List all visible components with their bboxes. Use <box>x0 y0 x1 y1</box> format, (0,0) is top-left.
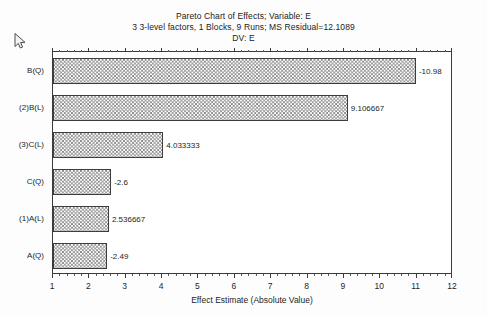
x-axis-minor-tick <box>227 50 228 52</box>
x-axis-minor-tick <box>372 50 373 52</box>
x-axis-minor-tick <box>248 50 249 52</box>
x-axis-minor-tick <box>430 50 431 52</box>
bar[interactable] <box>53 169 111 195</box>
x-axis-minor-tick <box>183 50 184 52</box>
x-axis-minor-tick <box>241 50 242 52</box>
x-axis-major-tick <box>451 48 452 52</box>
x-axis-minor-tick <box>256 50 257 52</box>
y-axis-category-label: (2)B(L) <box>19 102 44 111</box>
bar[interactable] <box>53 243 107 269</box>
x-axis-minor-tick <box>365 274 366 276</box>
bar-row: 9.106667 <box>53 95 453 121</box>
x-axis-minor-tick <box>132 50 133 52</box>
chart-title: Pareto Chart of Effects; Variable: E <box>0 11 487 22</box>
x-axis-minor-tick <box>336 274 337 276</box>
x-axis-minor-tick <box>168 50 169 52</box>
bar[interactable] <box>53 58 416 84</box>
x-axis-minor-tick <box>437 274 438 276</box>
x-axis-major-tick <box>88 274 89 278</box>
x-axis-minor-tick <box>423 50 424 52</box>
x-axis-minor-tick <box>299 50 300 52</box>
x-axis-minor-tick <box>168 274 169 276</box>
x-axis-minor-tick <box>81 274 82 276</box>
x-axis-minor-tick <box>423 274 424 276</box>
x-axis-minor-tick <box>372 274 373 276</box>
x-axis-minor-tick <box>350 274 351 276</box>
x-axis-minor-tick <box>263 50 264 52</box>
x-axis-minor-tick <box>430 274 431 276</box>
x-axis-major-tick <box>197 48 198 52</box>
x-axis-major-tick <box>52 274 53 278</box>
x-axis-minor-tick <box>183 274 184 276</box>
x-axis-minor-tick <box>445 50 446 52</box>
chart-subtitle: 3 3-level factors, 1 Blocks, 9 Runs; MS … <box>0 22 487 33</box>
y-axis-category-label: A(Q) <box>27 251 44 260</box>
x-axis-major-tick <box>125 48 126 52</box>
x-axis-minor-tick <box>96 274 97 276</box>
x-axis-minor-tick <box>147 274 148 276</box>
x-axis-minor-tick <box>212 50 213 52</box>
x-axis-minor-tick <box>154 274 155 276</box>
x-axis-major-tick <box>451 274 452 278</box>
x-axis-minor-tick <box>285 50 286 52</box>
x-axis-minor-tick <box>292 274 293 276</box>
x-axis-minor-tick <box>74 274 75 276</box>
x-axis-minor-tick <box>59 274 60 276</box>
x-axis-minor-tick <box>227 274 228 276</box>
x-axis-minor-tick <box>139 50 140 52</box>
x-axis-minor-tick <box>387 274 388 276</box>
x-axis-minor-tick <box>292 50 293 52</box>
bar-row: 2.536667 <box>53 206 453 232</box>
x-axis-minor-tick <box>205 50 206 52</box>
x-axis-minor-tick <box>139 274 140 276</box>
x-axis-minor-tick <box>117 50 118 52</box>
y-axis-category-label: (1)A(L) <box>19 214 44 223</box>
plot-area: -10.989.1066674.033333-2.62.536667-2.49 <box>52 51 452 274</box>
x-axis-minor-tick <box>321 274 322 276</box>
x-axis-minor-tick <box>176 274 177 276</box>
x-axis-major-tick <box>161 48 162 52</box>
x-axis-minor-tick <box>205 274 206 276</box>
bar-value-label: 9.106667 <box>348 103 384 112</box>
x-axis-minor-tick <box>117 274 118 276</box>
x-axis-tick-label: 1 <box>50 281 55 291</box>
x-axis-minor-tick <box>365 50 366 52</box>
x-axis-minor-tick <box>176 50 177 52</box>
bar[interactable] <box>53 132 163 158</box>
bar-value-label: 2.536667 <box>109 215 145 224</box>
bar-row: -2.6 <box>53 169 453 195</box>
x-axis-minor-tick <box>314 50 315 52</box>
x-axis-major-tick <box>197 274 198 278</box>
x-axis-tick-label: 2 <box>86 281 91 291</box>
x-axis-minor-tick <box>219 50 220 52</box>
x-axis-major-tick <box>379 274 380 278</box>
bars-layer: -10.989.1066674.033333-2.62.536667-2.49 <box>53 52 451 273</box>
x-axis-minor-tick <box>256 274 257 276</box>
x-axis-tick-label: 10 <box>375 281 384 291</box>
x-axis-major-tick <box>270 48 271 52</box>
x-axis-ticks-top <box>52 48 452 52</box>
x-axis-minor-tick <box>67 274 68 276</box>
x-axis-minor-tick <box>445 274 446 276</box>
bar[interactable] <box>53 206 109 232</box>
x-axis-major-tick <box>416 274 417 278</box>
y-axis-category-label: B(Q) <box>27 65 44 74</box>
x-axis-minor-tick <box>401 274 402 276</box>
x-axis-minor-tick <box>350 50 351 52</box>
x-axis-minor-tick <box>408 274 409 276</box>
x-axis-major-tick <box>343 48 344 52</box>
x-axis-tick-label: 8 <box>304 281 309 291</box>
x-axis-minor-tick <box>96 50 97 52</box>
x-axis-minor-tick <box>103 50 104 52</box>
x-axis-minor-tick <box>437 50 438 52</box>
x-axis-minor-tick <box>147 50 148 52</box>
x-axis-minor-tick <box>241 274 242 276</box>
bar[interactable] <box>53 95 348 121</box>
x-axis-minor-tick <box>74 50 75 52</box>
x-axis-minor-tick <box>401 50 402 52</box>
x-axis-tick-label: 7 <box>268 281 273 291</box>
x-axis-tick-label: 5 <box>195 281 200 291</box>
chart-subtitle-dv: DV: E <box>0 33 487 44</box>
x-axis-tick-label: 4 <box>159 281 164 291</box>
x-axis-minor-tick <box>321 50 322 52</box>
